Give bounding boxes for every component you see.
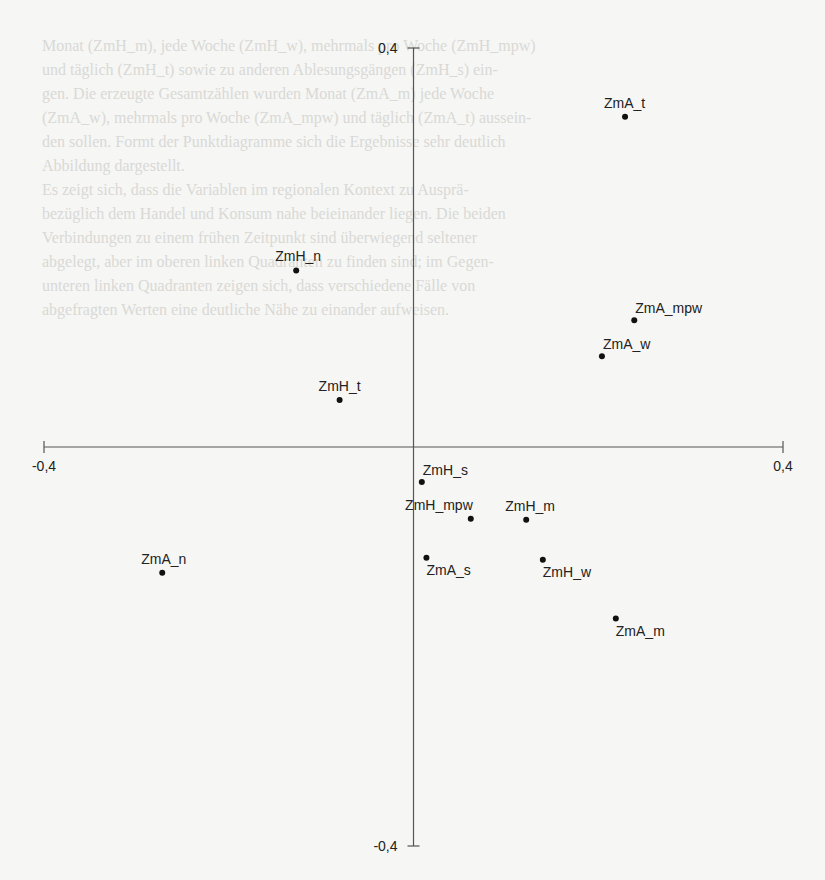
data-point: ZmH_w <box>540 557 592 580</box>
point-marker <box>540 557 546 563</box>
data-point: ZmA_m <box>613 616 665 639</box>
point-marker <box>599 353 605 359</box>
point-label: ZmA_t <box>604 95 645 111</box>
point-marker <box>523 517 529 523</box>
point-marker <box>419 479 425 485</box>
point-marker <box>423 555 429 561</box>
point-marker <box>631 317 637 323</box>
point-label: ZmH_m <box>505 498 555 514</box>
x-tick-label: 0,4 <box>773 458 793 474</box>
data-point: ZmA_s <box>423 555 470 578</box>
data-point: ZmA_mpw <box>631 300 703 323</box>
point-marker <box>337 397 343 403</box>
point-marker <box>468 516 474 522</box>
data-point: ZmH_n <box>275 248 321 273</box>
point-marker <box>159 570 165 576</box>
point-label: ZmH_w <box>543 564 592 580</box>
data-point: ZmH_s <box>419 462 468 485</box>
point-label: ZmH_mpw <box>405 497 474 513</box>
data-points: ZmA_tZmH_nZmA_mpwZmA_wZmH_tZmH_sZmH_mpwZ… <box>141 95 703 639</box>
point-label: ZmA_w <box>603 336 651 352</box>
data-point: ZmH_mpw <box>405 497 474 522</box>
point-label: ZmH_n <box>275 248 321 264</box>
point-label: ZmA_mpw <box>635 300 703 316</box>
point-label: ZmH_s <box>423 462 468 478</box>
point-marker <box>622 114 628 120</box>
data-point: ZmH_t <box>319 378 361 403</box>
data-point: ZmA_t <box>604 95 645 120</box>
y-tick-label: 0,4 <box>378 40 398 56</box>
y-tick-label: -0,4 <box>373 838 397 854</box>
point-label: ZmA_s <box>426 562 470 578</box>
point-label: ZmA_m <box>616 623 665 639</box>
data-point: ZmA_n <box>141 551 186 576</box>
x-tick-label: -0,4 <box>32 458 56 474</box>
axes <box>44 48 783 846</box>
point-marker <box>613 616 619 622</box>
point-marker <box>293 267 299 273</box>
point-label: ZmH_t <box>319 378 361 394</box>
point-label: ZmA_n <box>141 551 186 567</box>
scatter-plot: -0,40,40,4-0,4 ZmA_tZmH_nZmA_mpwZmA_wZmH… <box>0 0 825 880</box>
data-point: ZmA_w <box>599 336 651 359</box>
data-point: ZmH_m <box>505 498 555 523</box>
